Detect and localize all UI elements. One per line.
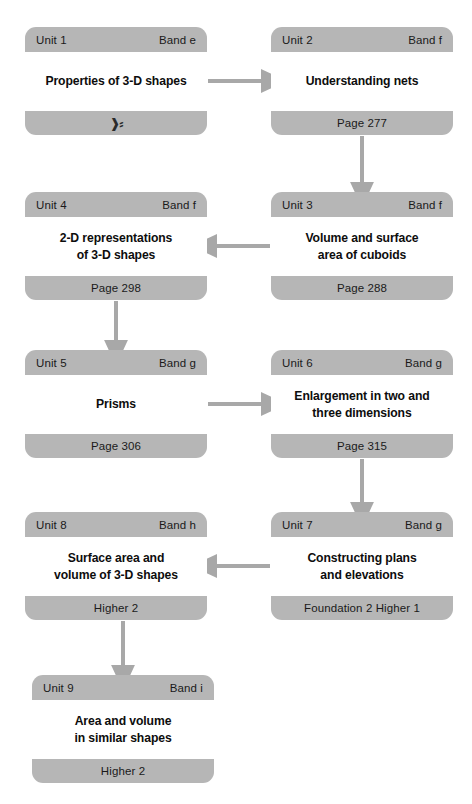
unit-card-body: Constructing plansand elevations [271,537,453,596]
band-label: Band g [159,357,196,369]
unit-card-footer: Page 306 [25,434,207,458]
unit-card-unit-3[interactable]: Unit 3 Band f Volume and surfacearea of … [271,192,453,300]
unit-card-unit-2[interactable]: Unit 2 Band f Understanding nets Page 27… [271,27,453,135]
unit-card-unit-7[interactable]: Unit 7 Band g Constructing plansand elev… [271,512,453,620]
unit-card-body: Understanding nets [271,52,453,111]
unit-card-footer: Page 298 [25,276,207,300]
band-label: Band f [408,34,442,46]
unit-card-header: Unit 8 Band h [25,512,207,537]
unit-card-body: Enlargement in two andthree dimensions [271,375,453,434]
unit-card-header: Unit 1 Band e [25,27,207,52]
unit-label: Unit 2 [282,34,313,46]
unit-card-footer: Page 277 [271,111,453,135]
unit-card-unit-4[interactable]: Unit 4 Band f 2-D representationsof 3-D … [25,192,207,300]
unit-card-body: Volume and surfacearea of cuboids [271,217,453,276]
unit-card-unit-9[interactable]: Unit 9 Band i Area and volumein similar … [32,675,214,783]
unit-title: Properties of 3-D shapes [45,73,186,89]
unit-card-header: Unit 6 Band g [271,350,453,375]
unit-label: Unit 3 [282,199,313,211]
unit-card-header: Unit 2 Band f [271,27,453,52]
unit-card-header: Unit 7 Band g [271,512,453,537]
unit-card-body: Area and volumein similar shapes [32,700,214,759]
unit-title: Prisms [96,396,136,412]
band-label: Band g [405,519,442,531]
unit-title: Volume and surfacearea of cuboids [305,230,418,262]
band-label: Band h [159,519,196,531]
unit-label: Unit 1 [36,34,67,46]
unit-card-unit-1[interactable]: Unit 1 Band e Properties of 3-D shapes ❱… [25,27,207,135]
unit-title: Area and volumein similar shapes [74,713,171,745]
unit-card-footer: Page 288 [271,276,453,300]
unit-card-footer: Higher 2 [32,759,214,783]
unit-label: Unit 6 [282,357,313,369]
band-label: Band g [405,357,442,369]
unit-title: Constructing plansand elevations [307,550,416,582]
unit-card-header: Unit 5 Band g [25,350,207,375]
band-label: Band i [170,682,203,694]
unit-card-body: Surface area andvolume of 3-D shapes [25,537,207,596]
unit-card-body: Prisms [25,375,207,434]
unit-card-header: Unit 3 Band f [271,192,453,217]
unit-title: Surface area andvolume of 3-D shapes [54,550,178,582]
unit-card-unit-8[interactable]: Unit 8 Band h Surface area andvolume of … [25,512,207,620]
unit-title: Understanding nets [306,73,419,89]
unit-card-body: 2-D representationsof 3-D shapes [25,217,207,276]
unit-flowchart: Unit 1 Band e Properties of 3-D shapes ❱… [0,0,472,804]
unit-card-header: Unit 4 Band f [25,192,207,217]
band-label: Band f [408,199,442,211]
unit-card-unit-6[interactable]: Unit 6 Band g Enlargement in two andthre… [271,350,453,458]
unit-card-body: Properties of 3-D shapes [25,52,207,111]
unit-label: Unit 7 [282,519,313,531]
unit-card-footer: Page 315 [271,434,453,458]
band-label: Band f [162,199,196,211]
band-label: Band e [159,34,196,46]
unit-card-footer: Foundation 2 Higher 1 [271,596,453,620]
unit-title: Enlargement in two andthree dimensions [294,388,429,420]
unit-title: 2-D representationsof 3-D shapes [60,230,173,262]
unit-card-footer: Higher 2 [25,596,207,620]
unit-label: Unit 8 [36,519,67,531]
unit-label: Unit 9 [43,682,74,694]
unit-label: Unit 4 [36,199,67,211]
unit-card-header: Unit 9 Band i [32,675,214,700]
unit-card-unit-5[interactable]: Unit 5 Band g Prisms Page 306 [25,350,207,458]
unit-card-footer: ❱⸗ [25,111,207,135]
unit-label: Unit 5 [36,357,67,369]
